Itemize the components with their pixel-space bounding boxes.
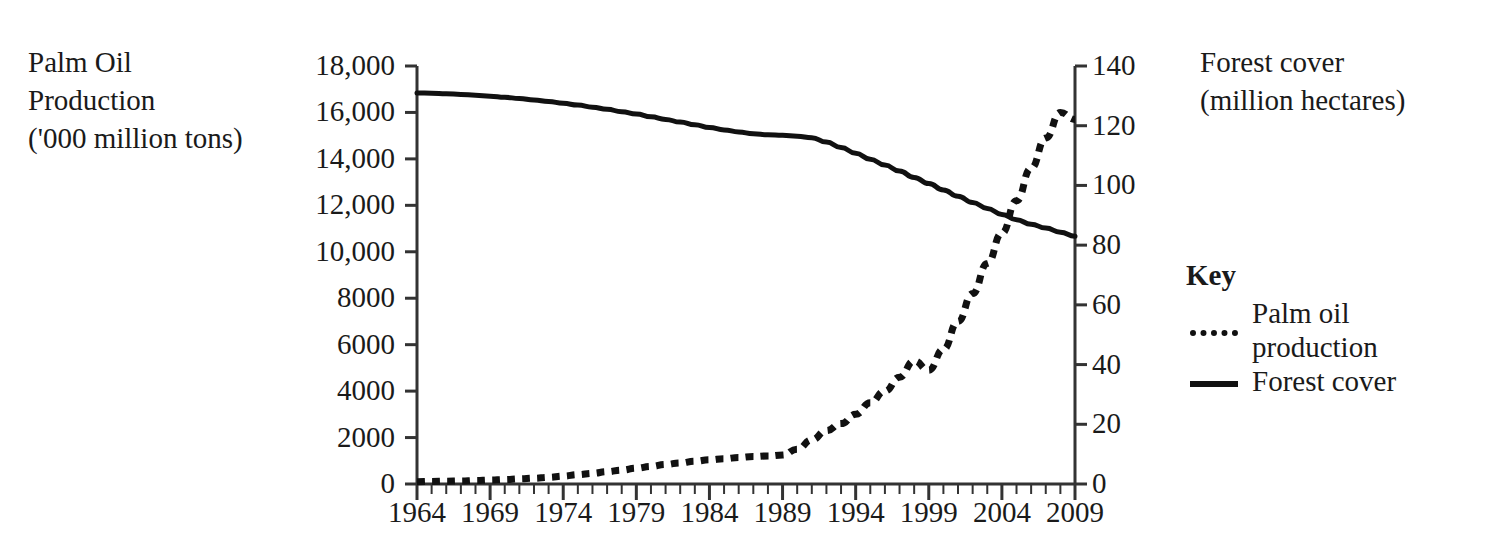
legend-item-palm-oil-production: Palm oil production (1186, 296, 1486, 364)
legend-item-forest-cover: Forest cover (1186, 364, 1486, 398)
axis-lines (417, 66, 1075, 484)
legend-title: Key (1186, 258, 1486, 292)
dotted-line-swatch-icon (1186, 296, 1242, 330)
series-line-palm-oil-production (417, 112, 1075, 481)
legend: Key Palm oil production Forest cover (1186, 258, 1486, 400)
series-line-forest-cover (417, 93, 1075, 236)
chart-figure: Palm Oil Production ('000 million tons) … (0, 0, 1487, 554)
legend-item-label: Palm oil production (1252, 296, 1378, 364)
solid-line-swatch-icon (1186, 364, 1242, 398)
legend-item-label: Forest cover (1252, 364, 1396, 398)
data-series (417, 93, 1075, 482)
